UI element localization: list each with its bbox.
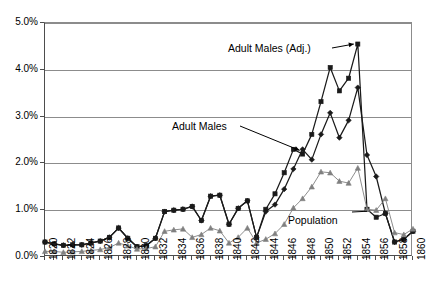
x-axis-tick-label: 1826 (103, 238, 114, 260)
data-point-marker (356, 42, 360, 46)
x-axis-tick-label: 1844 (269, 238, 280, 260)
data-point-marker (347, 76, 351, 80)
x-axis-tick (173, 256, 174, 260)
x-axis-tick (320, 256, 321, 260)
x-axis-tick (246, 256, 247, 260)
x-axis-tick (283, 256, 284, 260)
data-point-marker (392, 230, 397, 235)
x-axis-tick-label: 1850 (324, 238, 335, 260)
data-point-marker (337, 89, 341, 93)
x-axis-tick-label: 1832 (158, 238, 169, 260)
x-axis-tick-label: 1820 (48, 238, 59, 260)
data-point-marker (273, 192, 277, 196)
x-axis-tick-label: 1842 (250, 238, 261, 260)
data-point-marker (291, 147, 295, 151)
x-axis-tick (99, 256, 100, 260)
x-axis-tick (302, 256, 303, 260)
chart-container: 0.0%1.0%2.0%3.0%4.0%5.0% 182018221824182… (0, 0, 426, 300)
x-axis-tick-label: 1854 (361, 238, 372, 260)
series-1 (43, 42, 415, 249)
x-axis-tick-label: 1858 (398, 238, 409, 260)
x-axis-tick (210, 256, 211, 260)
y-axis-tick-label: 0.0% (0, 250, 38, 261)
data-point-marker (310, 132, 314, 136)
x-axis-tick-label: 1848 (306, 238, 317, 260)
data-point-marker (309, 184, 314, 189)
data-point-marker (208, 225, 213, 230)
y-axis-tick-label: 1.0% (0, 203, 38, 214)
x-axis-tick (44, 256, 45, 260)
data-point-marker (282, 186, 287, 191)
plot-area (44, 22, 412, 256)
y-axis-tick-label: 3.0% (0, 110, 38, 121)
x-axis-tick (338, 256, 339, 260)
x-axis-tick-label: 1856 (379, 238, 390, 260)
data-point-marker (355, 165, 360, 170)
x-axis-tick (136, 256, 137, 260)
data-point-marker (282, 222, 287, 227)
data-point-marker (245, 225, 250, 230)
annotation-adult-males-adj: Adult Males (Adj.) (228, 42, 311, 54)
x-axis-tick (228, 256, 229, 260)
x-axis-tick-label: 1846 (287, 238, 298, 260)
data-point-marker (374, 174, 379, 179)
x-axis-tick (118, 256, 119, 260)
x-axis-tick-label: 1834 (177, 238, 188, 260)
x-axis-tick (357, 256, 358, 260)
y-axis-tick-label: 2.0% (0, 156, 38, 167)
annotation-population: Population (288, 214, 338, 226)
x-axis-tick (154, 256, 155, 260)
x-axis-tick (394, 256, 395, 260)
data-point-marker (199, 232, 204, 237)
data-point-marker (374, 215, 378, 219)
x-axis-tick (62, 256, 63, 260)
x-axis-tick (375, 256, 376, 260)
data-point-marker (319, 100, 323, 104)
x-axis-tick-label: 1860 (416, 238, 426, 260)
data-point-marker (116, 240, 121, 245)
data-point-marker (318, 132, 323, 137)
data-point-marker (328, 65, 332, 69)
data-point-marker (291, 166, 296, 171)
data-point-marker (337, 135, 342, 140)
x-axis-tick-label: 1824 (85, 238, 96, 260)
series-2 (42, 85, 415, 250)
x-axis-tick (412, 256, 413, 260)
data-point-marker (383, 196, 388, 201)
data-point-marker (346, 118, 351, 123)
x-axis-tick-label: 1828 (122, 238, 133, 260)
x-axis-tick-label: 1840 (232, 238, 243, 260)
x-axis-tick (265, 256, 266, 260)
y-axis-tick-label: 5.0% (0, 16, 38, 27)
data-point-marker (263, 237, 268, 242)
data-point-marker (328, 110, 333, 115)
y-axis-tick-label: 4.0% (0, 63, 38, 74)
annotation-adult-males: Adult Males (172, 120, 227, 132)
x-axis-tick-label: 1822 (66, 238, 77, 260)
x-axis-tick-label: 1830 (140, 238, 151, 260)
x-axis-tick-label: 1836 (195, 238, 206, 260)
x-axis-tick-label: 1838 (214, 238, 225, 260)
x-axis-tick-label: 1852 (342, 238, 353, 260)
series-line (45, 44, 413, 247)
series-layer (45, 23, 413, 257)
x-axis-tick (81, 256, 82, 260)
x-axis-tick (191, 256, 192, 260)
data-point-marker (364, 152, 369, 157)
data-point-marker (282, 171, 286, 175)
